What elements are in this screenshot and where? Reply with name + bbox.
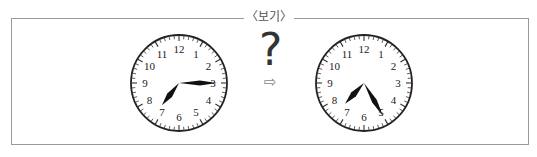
clock-number: 12 bbox=[174, 43, 185, 55]
clock-number: 11 bbox=[157, 48, 168, 60]
clock-number: 1 bbox=[193, 48, 199, 60]
clock-number: 11 bbox=[342, 48, 353, 60]
clock-number: 10 bbox=[329, 60, 341, 72]
right-arrow-icon: ⇨ bbox=[264, 74, 277, 90]
clock-number: 7 bbox=[159, 106, 165, 118]
clock-number: 10 bbox=[144, 60, 156, 72]
clock-number: 12 bbox=[359, 43, 370, 55]
clock-number: 9 bbox=[327, 77, 333, 89]
clock-number: 3 bbox=[395, 77, 401, 89]
example-box-title: 〈보기〉 bbox=[244, 10, 294, 24]
clock-number: 6 bbox=[361, 111, 367, 123]
clock-number: 9 bbox=[142, 77, 148, 89]
clock-number: 8 bbox=[147, 94, 153, 106]
clock-number: 2 bbox=[206, 60, 212, 72]
clock-number: 5 bbox=[193, 106, 199, 118]
clock-number: 4 bbox=[206, 94, 212, 106]
clock-number: 8 bbox=[332, 94, 338, 106]
question-mark: ? bbox=[259, 28, 282, 72]
clock-number: 4 bbox=[391, 94, 397, 106]
clock-number: 1 bbox=[378, 48, 384, 60]
clock-left: 121234567891011 bbox=[128, 32, 230, 134]
clock-number: 7 bbox=[344, 106, 350, 118]
clock-number: 6 bbox=[176, 111, 182, 123]
clock-number: 2 bbox=[391, 60, 397, 72]
clock-right: 121234567891011 bbox=[313, 32, 415, 134]
